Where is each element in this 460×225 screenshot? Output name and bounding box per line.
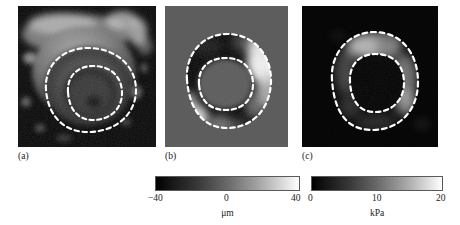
panel-a-svg bbox=[18, 6, 156, 147]
colorbar-stress-gradient bbox=[311, 176, 443, 191]
colorbar-displacement-unit: μm bbox=[155, 209, 300, 219]
panel-b-caption: (b) bbox=[165, 152, 176, 162]
panel-c-caption: (c) bbox=[302, 152, 313, 162]
panel-b-svg bbox=[165, 6, 288, 147]
panel-b-image bbox=[165, 6, 288, 147]
panel-a-caption: (a) bbox=[18, 152, 29, 162]
panel-c-svg bbox=[302, 6, 438, 147]
colorbar-stress-tick-min: 0 bbox=[308, 194, 313, 204]
colorbar-stress-unit: kPa bbox=[311, 209, 443, 219]
figure-root: (a) bbox=[0, 0, 460, 225]
colorbar-stress-tick-max: 20 bbox=[436, 194, 446, 204]
colorbar-displacement bbox=[155, 176, 300, 191]
colorbar-displacement-tick-max: 40 bbox=[291, 194, 301, 204]
colorbar-displacement-tick-mid: 0 bbox=[224, 194, 229, 204]
colorbar-displacement-tick-min: −40 bbox=[148, 194, 163, 204]
colorbar-stress bbox=[311, 176, 443, 191]
colorbar-displacement-gradient bbox=[155, 176, 300, 191]
panel-c-image bbox=[302, 6, 438, 147]
panel-a-image bbox=[18, 6, 156, 147]
colorbar-stress-tick-mid: 10 bbox=[372, 194, 382, 204]
